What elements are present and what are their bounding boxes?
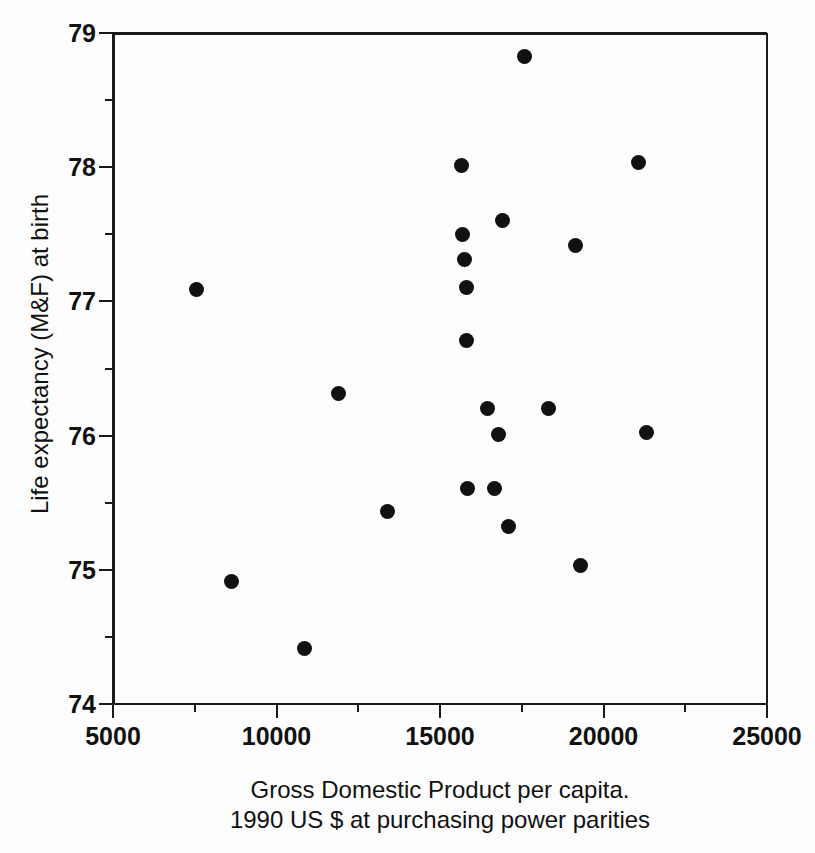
- x-tick-label: 5000: [85, 722, 141, 751]
- data-point: [331, 386, 346, 401]
- data-point: [501, 519, 516, 534]
- data-point: [639, 425, 654, 440]
- data-point: [487, 481, 502, 496]
- data-point: [459, 280, 474, 295]
- data-point: [459, 333, 474, 348]
- data-point: [631, 155, 646, 170]
- y-tick-label: 76: [68, 421, 96, 450]
- y-axis-title-wrapper: Life expectancy (M&F) at birth: [0, 0, 40, 704]
- x-tick-label: 20000: [569, 722, 639, 751]
- data-point: [491, 427, 506, 442]
- data-point: [517, 49, 532, 64]
- x-axis-title: Gross Domestic Product per capita. 1990 …: [113, 775, 767, 835]
- y-tick-label: 78: [68, 153, 96, 182]
- data-point: [480, 401, 495, 416]
- y-tick-label: 75: [68, 555, 96, 584]
- plot-area: [115, 35, 767, 704]
- x-tick-label: 25000: [732, 722, 802, 751]
- x-tick-label: 15000: [405, 722, 475, 751]
- scatter-chart-figure: 747576777879 500010000150002000025000 Gr…: [0, 0, 815, 853]
- data-point: [460, 481, 475, 496]
- data-point: [189, 282, 204, 297]
- data-point: [455, 227, 470, 242]
- data-point: [541, 401, 556, 416]
- x-axis-title-line1: Gross Domestic Product per capita.: [113, 775, 767, 805]
- y-axis-title: Life expectancy (M&F) at birth: [26, 34, 54, 674]
- data-point: [224, 574, 239, 589]
- data-point: [573, 558, 588, 573]
- data-point: [380, 504, 395, 519]
- data-point: [297, 641, 312, 656]
- y-tick-label: 79: [68, 19, 96, 48]
- data-point: [495, 213, 510, 228]
- plot-frame: [113, 33, 767, 704]
- data-point: [454, 158, 469, 173]
- x-axis-title-line2: 1990 US $ at purchasing power parities: [113, 805, 767, 835]
- y-tick-label: 77: [68, 287, 96, 316]
- x-axis-tick-labels: 500010000150002000025000: [0, 722, 815, 756]
- data-point: [568, 238, 583, 253]
- data-point: [457, 252, 472, 267]
- y-tick-label: 74: [68, 690, 96, 719]
- x-tick-label: 10000: [242, 722, 312, 751]
